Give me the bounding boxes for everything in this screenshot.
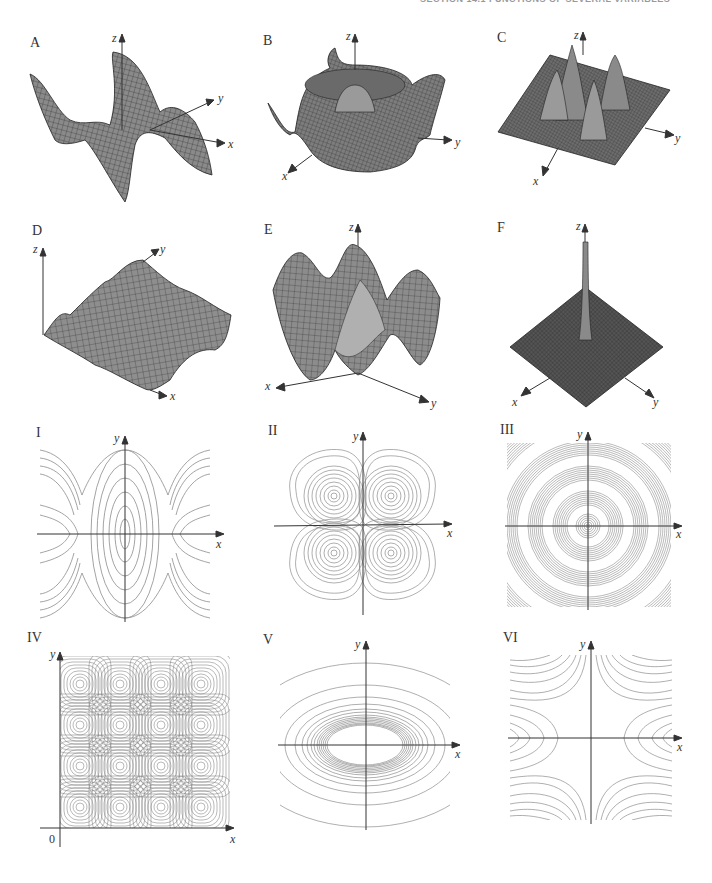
axis-label-x: x xyxy=(215,537,222,551)
axis-label-y: y xyxy=(113,431,120,445)
axis-label-y: y xyxy=(217,91,224,105)
axis-label-z: z xyxy=(575,219,581,233)
contour-plot-iii: y x xyxy=(470,420,712,630)
surface-plot-d: z y x xyxy=(0,220,240,410)
contour-panel-vi: VI y x xyxy=(470,630,712,883)
contour-panel-iv: IV y x 0 xyxy=(0,630,240,883)
surface-plot-b: z y x xyxy=(240,30,480,210)
surface-panel-a: A z y x xyxy=(0,30,240,210)
axis-label-z: z xyxy=(348,220,354,234)
surface-panel-f: F z x y xyxy=(470,220,712,420)
axis-label-y: y xyxy=(430,396,437,410)
axis-label-y: y xyxy=(354,637,361,651)
surface-panel-b: B z y x xyxy=(240,30,480,210)
axis-label-y: y xyxy=(674,131,681,145)
axis-label-y: y xyxy=(49,647,56,661)
axis-label-x: x xyxy=(532,174,539,188)
surface-plot-a: z y x xyxy=(0,30,240,210)
contour-panel-iii: III y x xyxy=(470,420,712,630)
surface-panel-e: E z x y xyxy=(240,220,480,410)
axis-label-x: x xyxy=(676,740,683,754)
running-head: SECTION 14.1 FUNCTIONS OF SEVERAL VARIAB… xyxy=(420,0,712,6)
axis-label-y: y xyxy=(454,135,461,149)
axis-label-z: z xyxy=(573,28,579,42)
axis-label-y: y xyxy=(352,429,359,443)
axis-label-x: x xyxy=(264,379,271,393)
axis-label-x: x xyxy=(454,747,461,761)
axis-label-x: x xyxy=(227,137,234,151)
contour-plot-i: y x xyxy=(0,420,240,630)
contour-plot-vi: y x xyxy=(470,630,712,883)
axis-label-x: x xyxy=(675,527,682,541)
contour-plot-v: y x xyxy=(240,630,480,883)
axis-label-z: z xyxy=(32,242,38,256)
axis-label-x: x xyxy=(281,169,288,183)
surface-plot-f: z x y xyxy=(470,220,712,420)
axis-label-y: y xyxy=(579,637,586,651)
axis-label-z: z xyxy=(345,29,351,43)
axis-label-x: x xyxy=(169,389,176,403)
surface-panel-c: C z y x xyxy=(470,30,712,210)
origin-label: 0 xyxy=(49,832,55,846)
contour-plot-ii: y x xyxy=(240,420,480,630)
contour-panel-i: I y x xyxy=(0,420,240,630)
contour-panel-v: V y x xyxy=(240,630,480,883)
contour-plot-iv: y x 0 xyxy=(0,630,240,883)
axis-label-x: x xyxy=(511,395,518,409)
axis-label-x: x xyxy=(446,526,453,540)
axis-label-y: y xyxy=(576,427,583,441)
axis-label-y: y xyxy=(652,395,659,409)
surface-panel-d: D z y x xyxy=(0,220,240,410)
axis-label-z: z xyxy=(111,31,117,45)
contour-panel-ii: II y x xyxy=(240,420,480,630)
surface-plot-c: z y x xyxy=(470,30,712,210)
surface-plot-e: z x y xyxy=(240,220,480,410)
axis-label-y: y xyxy=(159,242,166,256)
axis-label-x: x xyxy=(229,832,236,846)
